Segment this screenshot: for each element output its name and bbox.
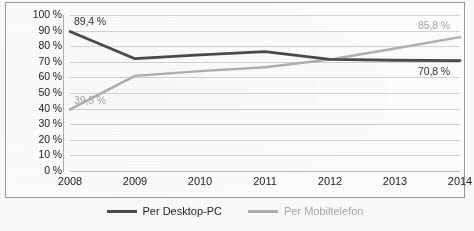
series-lines: [70, 15, 460, 171]
x-tick-label-2014: 2014: [448, 175, 472, 187]
plot-area: 89,4 %39,5 %85,8 %70,8 %: [70, 15, 460, 171]
chart-plot-frame: 0 %10 %20 %30 %40 %50 %60 %70 %80 %90 %1…: [5, 2, 465, 198]
x-tick-label-2010: 2010: [188, 175, 212, 187]
y-axis-labels: 0 %10 %20 %30 %40 %50 %60 %70 %80 %90 %1…: [10, 15, 62, 171]
line-per-desktop-pc: [70, 32, 460, 61]
x-tick-label-2008: 2008: [58, 175, 82, 187]
legend-label-desktop: Per Desktop-PC: [143, 205, 222, 217]
y-tick-label-60: 60 %: [16, 70, 62, 82]
chart-card: 0 %10 %20 %30 %40 %50 %60 %70 %80 %90 %1…: [0, 0, 474, 231]
y-tick-label-10: 10 %: [16, 148, 62, 160]
line-per-mobiltelefon: [70, 37, 460, 109]
y-tick-label-80: 80 %: [16, 39, 62, 51]
legend-swatch-desktop: [107, 210, 137, 213]
y-tick-label-70: 70 %: [16, 55, 62, 67]
y-tick-label-50: 50 %: [16, 86, 62, 98]
y-axis-line: [63, 15, 64, 172]
label-desktop-2008: 89,4 %: [74, 15, 106, 27]
y-tick-label-90: 90 %: [16, 24, 62, 36]
label-desktop-2014: 70,8 %: [418, 65, 450, 77]
y-tick-label-100: 100 %: [16, 8, 62, 20]
y-tick-label-40: 40 %: [16, 102, 62, 114]
y-tick-label-20: 20 %: [16, 133, 62, 145]
x-tick-label-2009: 2009: [123, 175, 147, 187]
legend-label-mobile: Per Mobiltelefon: [284, 205, 364, 217]
x-tick-label-2011: 2011: [253, 175, 277, 187]
y-tick-label-30: 30 %: [16, 117, 62, 129]
label-mobile-2008: 39,5 %: [74, 94, 106, 106]
label-mobile-2014: 85,8 %: [418, 19, 450, 31]
legend-swatch-mobile: [248, 210, 278, 213]
y-tick-label-0: 0 %: [16, 164, 62, 176]
legend-item-per-mobiltelefon[interactable]: Per Mobiltelefon: [248, 205, 364, 217]
gridline-0: [70, 171, 460, 172]
chart-legend: Per Desktop-PC Per Mobiltelefon: [5, 200, 465, 222]
legend-item-per-desktop-pc[interactable]: Per Desktop-PC: [107, 205, 222, 217]
x-axis-labels: 2008200920102011201220132014: [70, 175, 460, 191]
x-tick-label-2013: 2013: [383, 175, 407, 187]
x-tick-label-2012: 2012: [318, 175, 342, 187]
